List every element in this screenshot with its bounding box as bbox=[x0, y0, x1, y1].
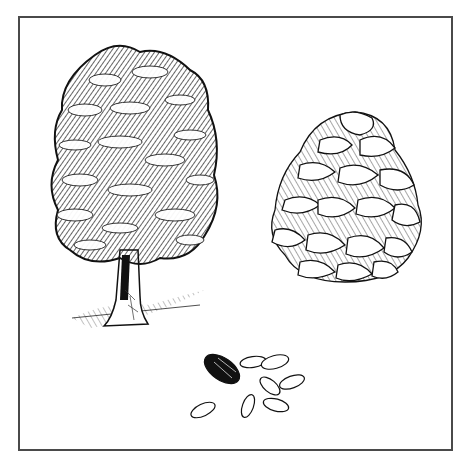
pine-nuts-drawing bbox=[189, 349, 307, 421]
pine-cone-drawing bbox=[272, 112, 422, 282]
pine-illustration bbox=[0, 0, 469, 469]
tree-drawing bbox=[52, 46, 218, 328]
